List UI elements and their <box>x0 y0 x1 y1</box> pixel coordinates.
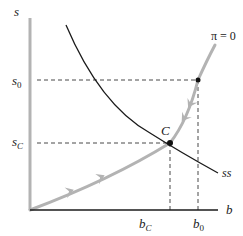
pi-zero-label: π = 0 <box>211 29 236 43</box>
bc-sub: C <box>146 223 153 233</box>
ss-label: ss <box>222 166 232 180</box>
ss-curve <box>66 25 218 173</box>
b0-label: b0 <box>193 216 205 233</box>
equilibrium-point <box>167 140 173 146</box>
b0-sub: 0 <box>200 223 205 233</box>
arrow-icon <box>178 111 192 125</box>
s0-label: s0 <box>12 73 22 90</box>
initial-point <box>196 78 201 83</box>
equilibrium-label: C <box>161 123 170 138</box>
sc-label: sC <box>12 134 24 151</box>
x-axis-label: b <box>226 202 233 217</box>
sc-sub: C <box>17 141 24 151</box>
bc-label: bC <box>139 216 153 233</box>
pi-zero-curve <box>30 45 215 210</box>
y-axis-label: s <box>14 4 19 19</box>
phase-diagram: s b s0 sC bC b0 π = 0 ss C <box>0 0 243 236</box>
flow-arrows <box>64 97 198 198</box>
s0-sub: 0 <box>17 80 22 90</box>
guide-lines <box>37 80 198 210</box>
